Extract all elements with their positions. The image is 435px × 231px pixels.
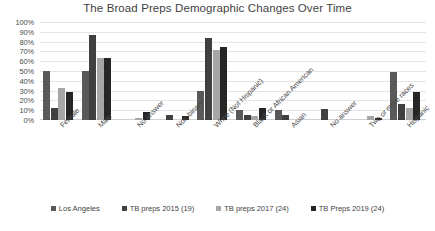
legend-item[interactable]: TB preps 2017 (24) xyxy=(216,204,289,213)
bar[interactable] xyxy=(89,35,96,120)
bar[interactable] xyxy=(104,58,111,120)
legend-swatch-icon xyxy=(51,206,56,211)
legend-item[interactable]: Los Angeles xyxy=(51,204,100,213)
bar[interactable] xyxy=(275,110,282,120)
bar-group xyxy=(310,22,349,120)
bar[interactable] xyxy=(205,38,212,120)
bar[interactable] xyxy=(43,71,50,120)
y-axis-tick-labels: 100%90%80%70%60%50%40%30%20%10%0% xyxy=(0,22,36,120)
chart-legend: Los AngelesTB preps 2015 (19)TB preps 20… xyxy=(0,204,435,213)
bar-group xyxy=(117,22,156,120)
chart-title: The Broad Preps Demographic Changes Over… xyxy=(0,2,435,14)
legend-label: TB preps 2015 (19) xyxy=(130,204,195,213)
y-axis-tick-label: 90% xyxy=(20,27,35,36)
y-axis-tick-label: 20% xyxy=(20,96,35,105)
y-axis-tick-label: 10% xyxy=(20,106,35,115)
bar[interactable] xyxy=(398,104,405,120)
y-axis-tick-label: 80% xyxy=(20,37,35,46)
legend-label: Los Angeles xyxy=(59,204,100,213)
bar[interactable] xyxy=(213,50,220,120)
bar-chart: The Broad Preps Demographic Changes Over… xyxy=(0,0,435,231)
legend-label: TB Preps 2019 (24) xyxy=(319,204,384,213)
legend-item[interactable]: TB preps 2015 (19) xyxy=(122,204,195,213)
y-axis-tick-label: 40% xyxy=(20,76,35,85)
y-axis-tick-label: 50% xyxy=(20,67,35,76)
y-axis-tick-label: 100% xyxy=(15,18,34,27)
y-axis-tick-label: 70% xyxy=(20,47,35,56)
y-axis-tick-label: 30% xyxy=(20,86,35,95)
x-axis-tick-labels: FemaleMaleNo answerNon-binaryWhite (Not … xyxy=(40,120,426,192)
y-axis-tick-label: 0% xyxy=(24,116,34,125)
bar[interactable] xyxy=(236,110,243,120)
bar[interactable] xyxy=(82,71,89,120)
y-axis-tick-label: 60% xyxy=(20,57,35,66)
bar-group xyxy=(79,22,118,120)
bar[interactable] xyxy=(51,108,58,120)
legend-swatch-icon xyxy=(311,206,316,211)
legend-item[interactable]: TB Preps 2019 (24) xyxy=(311,204,384,213)
bar[interactable] xyxy=(321,109,328,120)
bar-group xyxy=(40,22,79,120)
legend-label: TB preps 2017 (24) xyxy=(224,204,289,213)
legend-swatch-icon xyxy=(216,206,221,211)
legend-swatch-icon xyxy=(122,206,127,211)
bar[interactable] xyxy=(97,58,104,120)
